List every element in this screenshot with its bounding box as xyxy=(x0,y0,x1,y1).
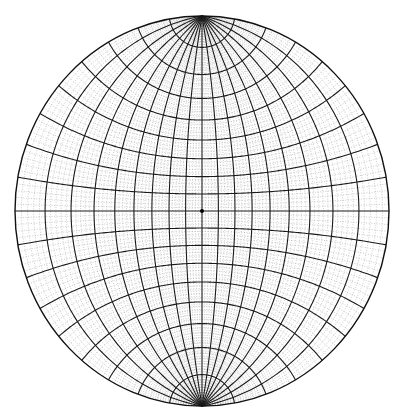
stereonet-svg xyxy=(0,0,402,417)
wulff-net-diagram xyxy=(0,0,402,417)
center-point xyxy=(200,209,204,213)
